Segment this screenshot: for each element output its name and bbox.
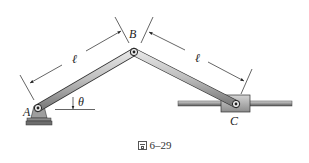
link-bc — [134, 52, 236, 104]
point-label-a: A — [22, 105, 31, 119]
length-label-bc: ℓ — [195, 51, 200, 65]
point-label-c: C — [230, 114, 239, 128]
pin-b — [130, 48, 137, 55]
point-label-b: B — [129, 27, 137, 41]
figure-icon — [138, 141, 147, 150]
pin-a — [34, 104, 41, 111]
caption-number: 6–29 — [150, 139, 172, 151]
length-label-ab: ℓ — [72, 52, 77, 66]
figure-caption: 图6–29 — [0, 139, 309, 151]
pin-c — [232, 100, 239, 107]
link-ab — [38, 52, 134, 108]
angle-label-theta: θ — [78, 95, 84, 109]
